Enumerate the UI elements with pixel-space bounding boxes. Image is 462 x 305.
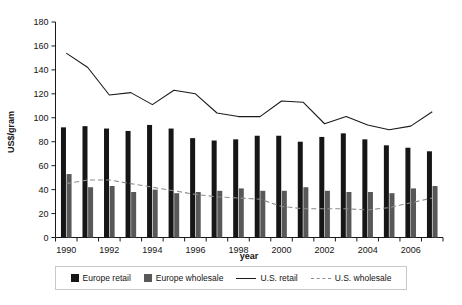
x-axis: 199019921994199619982000200220042006 yea… <box>56 238 444 262</box>
bar <box>276 136 281 238</box>
y-axis-title: US$/gram <box>6 111 16 153</box>
bar <box>169 129 174 238</box>
bar <box>190 138 195 237</box>
series-us-wholesale-line <box>66 180 432 210</box>
bar <box>239 188 244 237</box>
bar <box>346 192 351 237</box>
x-tick-label: 1992 <box>99 245 119 255</box>
y-tick-label: 20 <box>38 209 48 219</box>
legend-label-europe-retail: Europe retail <box>83 274 131 283</box>
y-tick-group: 020406080100120140160180 <box>33 17 55 243</box>
y-tick-label: 80 <box>38 137 48 147</box>
x-tick-label: 2004 <box>358 245 378 255</box>
bar <box>217 191 222 238</box>
bar <box>88 187 93 237</box>
bar <box>362 139 367 237</box>
y-axis: 020406080100120140160180 US$/gram <box>6 17 56 243</box>
x-tick-label: 2002 <box>315 245 335 255</box>
bar <box>411 188 416 237</box>
legend-item-europe-retail: Europe retail <box>71 274 131 283</box>
x-tick-label: 1996 <box>185 245 205 255</box>
bar <box>405 148 410 238</box>
y-tick-label: 100 <box>33 113 48 123</box>
y-tick-label: 180 <box>33 17 48 27</box>
bar <box>153 190 158 238</box>
y-tick-label: 0 <box>43 233 48 243</box>
bar <box>389 193 394 237</box>
chart-legend: Europe retail Europe wholesale U.S. reta… <box>55 266 407 290</box>
x-tick-label: 2006 <box>401 245 421 255</box>
series-europe-wholesale-bars <box>67 174 438 237</box>
x-axis-title: year <box>240 251 259 261</box>
x-tick-label: 1990 <box>56 245 76 255</box>
bar <box>384 145 389 237</box>
bar <box>82 126 87 237</box>
square-gray-icon <box>144 274 152 282</box>
legend-label-us-wholesale: U.S. wholesale <box>335 274 392 283</box>
bar <box>368 192 373 237</box>
solid-line-icon <box>236 278 256 279</box>
bar <box>282 191 287 238</box>
bar <box>255 136 260 238</box>
bar <box>196 192 201 237</box>
bar <box>147 125 152 238</box>
y-tick-label: 120 <box>33 89 48 99</box>
chart-figure: 020406080100120140160180 US$/gram 199019… <box>0 0 462 305</box>
y-tick-label: 140 <box>33 65 48 75</box>
legend-item-europe-wholesale: Europe wholesale <box>144 274 224 283</box>
dashed-line-icon <box>311 278 331 279</box>
bar <box>427 151 432 237</box>
legend-item-us-retail: U.S. retail <box>236 274 297 283</box>
x-tick-label: 2000 <box>272 245 292 255</box>
bar <box>303 187 308 237</box>
plot-area: 020406080100120140160180 US$/gram 199019… <box>0 0 462 262</box>
y-tick-label: 40 <box>38 185 48 195</box>
bar <box>260 191 265 238</box>
bar <box>131 192 136 237</box>
x-tick-label: 1994 <box>142 245 162 255</box>
y-tick-label: 60 <box>38 161 48 171</box>
square-black-icon <box>71 274 79 282</box>
bar <box>319 137 324 238</box>
chart-svg: 020406080100120140160180 US$/gram 199019… <box>0 0 462 262</box>
bar <box>61 127 66 237</box>
bar <box>341 133 346 237</box>
bar <box>212 141 217 238</box>
bar <box>325 191 330 238</box>
y-tick-label: 160 <box>33 41 48 51</box>
legend-label-us-retail: U.S. retail <box>260 274 297 283</box>
bar <box>433 186 438 237</box>
bar <box>233 139 238 237</box>
bar <box>126 131 131 238</box>
series-us-retail-line <box>66 53 432 130</box>
bar <box>104 129 109 238</box>
bar <box>298 142 303 238</box>
legend-label-europe-wholesale: Europe wholesale <box>156 274 224 283</box>
bar <box>174 193 179 237</box>
bar <box>110 186 115 237</box>
legend-item-us-wholesale: U.S. wholesale <box>311 274 392 283</box>
